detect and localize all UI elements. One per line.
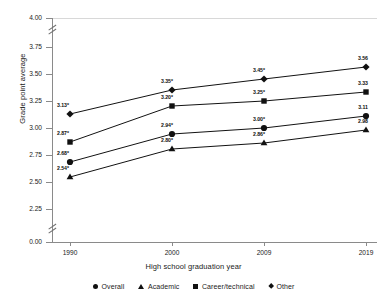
value-label-overall-2009: 3.00* bbox=[253, 116, 265, 122]
series-career-technical bbox=[67, 89, 368, 144]
triangle-marker-icon bbox=[138, 284, 144, 289]
value-label-other-2009: 3.45* bbox=[253, 67, 265, 73]
legend-label-overall: Overall bbox=[102, 283, 125, 290]
value-label-overall-1990: 2.68* bbox=[57, 150, 69, 156]
value-label-overall-2019: 3.11 bbox=[358, 104, 368, 110]
legend-label-other: Other bbox=[276, 283, 294, 290]
marker-other-2009 bbox=[260, 75, 267, 82]
value-label-career-1990: 2.87* bbox=[57, 130, 69, 136]
series-overall bbox=[67, 113, 369, 165]
circle-marker-icon bbox=[93, 284, 99, 290]
marker-academic-2019 bbox=[363, 126, 370, 132]
square-marker-icon bbox=[193, 284, 198, 289]
series-academic bbox=[67, 126, 370, 179]
value-label-other-2019: 3.56 bbox=[358, 55, 368, 61]
marker-other-2000 bbox=[168, 86, 175, 93]
marker-academic-2000 bbox=[169, 145, 176, 151]
marker-other-2019 bbox=[362, 63, 369, 70]
chart-legend: Overall Academic Career/technical Other bbox=[0, 283, 387, 290]
value-label-career-2000: 3.20* bbox=[161, 94, 173, 100]
marker-career-2009 bbox=[261, 98, 266, 103]
legend-label-career-technical: Career/technical bbox=[202, 283, 255, 290]
value-label-other-2000: 3.35* bbox=[161, 78, 173, 84]
value-label-academic-2000: 2.80* bbox=[161, 137, 173, 143]
series-other bbox=[66, 63, 369, 117]
marker-career-2000 bbox=[169, 103, 174, 108]
legend-item-academic[interactable]: Academic bbox=[138, 283, 179, 290]
value-label-overall-2000: 2.94* bbox=[161, 122, 173, 128]
legend-item-overall[interactable]: Overall bbox=[93, 283, 125, 290]
value-label-academic-2009: 2.86* bbox=[253, 131, 265, 137]
legend-label-academic: Academic bbox=[148, 283, 180, 290]
value-label-career-2009: 3.25* bbox=[253, 89, 265, 95]
marker-career-1990 bbox=[67, 139, 72, 144]
value-label-academic-1990: 2.54* bbox=[57, 165, 69, 171]
y-axis-title: Grade point average bbox=[18, 19, 27, 159]
marker-career-2019 bbox=[363, 89, 368, 94]
legend-item-career-technical[interactable]: Career/technical bbox=[193, 283, 254, 290]
legend-item-other[interactable]: Other bbox=[269, 283, 295, 290]
value-label-other-1990: 3.13* bbox=[57, 102, 69, 108]
x-axis-title: High school graduation year bbox=[0, 262, 387, 271]
diamond-marker-icon bbox=[268, 283, 274, 289]
value-label-career-2019: 3.33 bbox=[358, 80, 368, 86]
gpa-line-chart: 4.00 3.75 3.50 3.25 3.00 2.75 2.50 2.25 … bbox=[0, 0, 387, 305]
value-label-academic-2019: 2.98 bbox=[358, 118, 368, 124]
marker-other-1990 bbox=[66, 110, 73, 117]
